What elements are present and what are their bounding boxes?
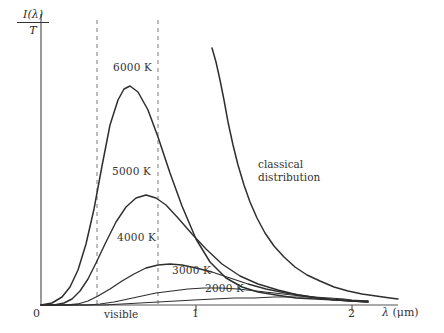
blackbody-radiation-figure: I(λ) T 0 1 2 λ (μm) visible 6000 K 5000 … xyxy=(0,0,444,333)
curve-label-2000k: 2000 K xyxy=(205,283,244,295)
curve-label-3000k: 3000 K xyxy=(172,265,211,277)
classical-label-line1: classical xyxy=(258,158,320,171)
y-axis-label: I(λ) T xyxy=(11,8,55,37)
x-tick-label-1: 1 xyxy=(192,308,199,320)
y-axis-label-numerator: I(λ) xyxy=(11,8,55,22)
curve-label-6000k: 6000 K xyxy=(113,62,152,74)
x-axis-label-unit: (μm) xyxy=(392,306,418,319)
x-tick-label-0: 0 xyxy=(33,308,40,320)
y-axis-label-denominator: T xyxy=(11,23,55,37)
classical-label-line2: distribution xyxy=(258,171,320,184)
x-tick-label-2: 2 xyxy=(348,308,355,320)
x-axis-label-symbol: λ xyxy=(382,306,389,319)
x-axis-label: λ (μm) xyxy=(382,307,419,319)
curve-label-classical-distribution: classical distribution xyxy=(258,158,320,184)
visible-band-label: visible xyxy=(104,309,138,321)
curve-label-5000k: 5000 K xyxy=(112,166,151,178)
curve-label-4000k: 4000 K xyxy=(117,232,156,244)
